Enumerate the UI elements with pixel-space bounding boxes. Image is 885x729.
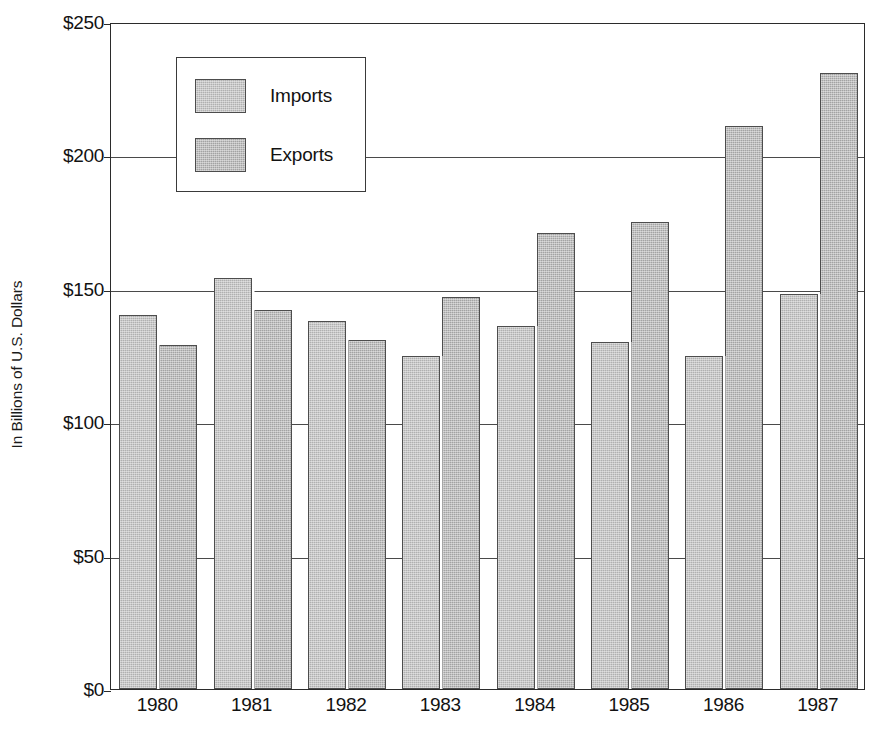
imports-swatch-icon [195, 79, 246, 113]
exports-swatch-icon [195, 138, 246, 172]
y-tick-label-50: $50 [22, 546, 104, 568]
bar-imports-1981 [214, 278, 252, 689]
legend-item-imports: Imports [177, 72, 365, 120]
bar-exports-1987 [820, 73, 858, 689]
y-tickmark-250 [104, 24, 111, 25]
y-axis-tick-labels: $250$200$150$100$50$0 [22, 0, 104, 729]
y-tick-label-150: $150 [22, 279, 104, 301]
bar-imports-1980 [119, 315, 157, 689]
y-tickmark-200 [104, 157, 111, 158]
bar-exports-1981 [254, 310, 292, 689]
y-tickmark-0 [104, 691, 111, 692]
bar-exports-1985 [631, 222, 669, 689]
bar-group-1985 [583, 24, 677, 689]
x-tick-label-1983: 1983 [420, 694, 461, 716]
bar-imports-1986 [685, 356, 723, 690]
bar-exports-1983 [442, 297, 480, 689]
x-tick-label-1985: 1985 [609, 694, 650, 716]
x-tick-label-1984: 1984 [514, 694, 555, 716]
bar-exports-1980 [159, 345, 197, 689]
bar-group-1986 [677, 24, 771, 689]
y-tick-label-250: $250 [22, 12, 104, 34]
y-tickmark-50 [104, 558, 111, 559]
x-tick-label-1980: 1980 [137, 694, 178, 716]
bar-imports-1982 [308, 321, 346, 689]
bar-group-1983 [394, 24, 488, 689]
bar-exports-1986 [725, 126, 763, 689]
y-tickmark-150 [104, 291, 111, 292]
x-tick-label-1981: 1981 [231, 694, 272, 716]
bar-imports-1983 [402, 356, 440, 690]
x-tick-label-1986: 1986 [703, 694, 744, 716]
chart-page: In Billions of U.S. Dollars $250$200$150… [0, 0, 885, 729]
legend-item-exports: Exports [177, 131, 365, 179]
bar-exports-1984 [537, 233, 575, 689]
bar-group-1984 [489, 24, 583, 689]
chart-legend: Imports Exports [176, 57, 366, 192]
bar-exports-1982 [348, 340, 386, 690]
y-tickmark-100 [104, 424, 111, 425]
legend-label-exports: Exports [270, 144, 333, 166]
bar-imports-1985 [591, 342, 629, 689]
x-axis-tick-labels: 19801981198219831984198519861987 [110, 694, 865, 724]
y-tick-label-100: $100 [22, 412, 104, 434]
x-tick-label-1987: 1987 [797, 694, 838, 716]
bar-imports-1987 [780, 294, 818, 689]
bar-group-1987 [772, 24, 866, 689]
bar-imports-1984 [497, 326, 535, 689]
x-tick-label-1982: 1982 [325, 694, 366, 716]
legend-label-imports: Imports [270, 85, 332, 107]
y-tick-label-0: $0 [22, 679, 104, 701]
y-tick-label-200: $200 [22, 145, 104, 167]
